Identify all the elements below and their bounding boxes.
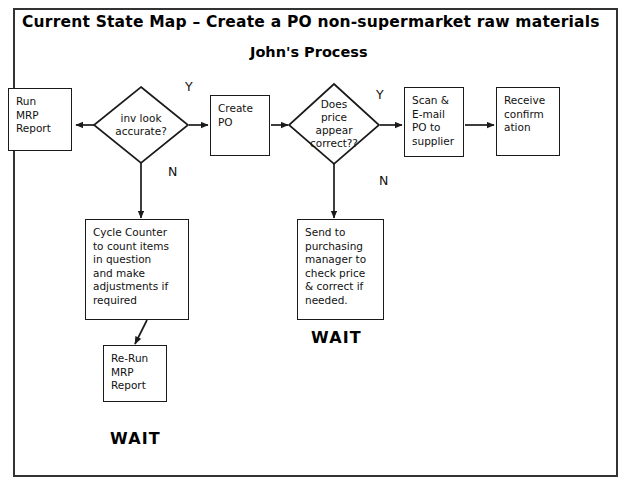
annotation-wait-price: WAIT bbox=[311, 328, 362, 347]
node-run-mrp-report[interactable]: RunMRPReport bbox=[8, 88, 72, 151]
node-does-price-appear-correct[interactable]: Doespriceappearcorrect?? bbox=[287, 82, 381, 166]
node-label: Send topurchasingmanager tocheck price& … bbox=[305, 226, 366, 306]
node-scan-email-po[interactable]: Scan &E-mailPO tosupplier bbox=[404, 87, 464, 157]
node-inv-look-accurate[interactable]: inv lookaccurate? bbox=[92, 85, 190, 165]
page-subtitle: John's Process bbox=[250, 44, 368, 60]
node-label: Scan &E-mailPO tosupplier bbox=[412, 94, 454, 147]
annotation-wait-inventory: WAIT bbox=[110, 429, 161, 448]
node-label: Receiveconfirmation bbox=[504, 94, 545, 133]
node-receive-confirmation[interactable]: Receiveconfirmation bbox=[496, 87, 560, 156]
node-label: CreatePO bbox=[218, 102, 253, 128]
flowchart-canvas: Current State Map – Create a PO non-supe… bbox=[0, 0, 637, 489]
branch-label-inv-yes: Y bbox=[185, 79, 193, 94]
node-cycle-counter[interactable]: Cycle Counterto count itemsin questionan… bbox=[85, 219, 189, 320]
node-label: Cycle Counterto count itemsin questionan… bbox=[93, 226, 169, 306]
node-label: Re-RunMRPReport bbox=[111, 352, 148, 391]
node-label: Doespriceappearcorrect?? bbox=[287, 82, 381, 166]
branch-label-inv-no: N bbox=[168, 164, 177, 179]
node-send-to-purchasing[interactable]: Send topurchasingmanager tocheck price& … bbox=[297, 219, 384, 320]
branch-label-price-yes: Y bbox=[376, 87, 384, 102]
branch-label-price-no: N bbox=[379, 173, 388, 188]
node-label: inv lookaccurate? bbox=[92, 85, 190, 165]
page-title: Current State Map – Create a PO non-supe… bbox=[22, 13, 582, 31]
node-rerun-mrp-report[interactable]: Re-RunMRPReport bbox=[103, 345, 167, 402]
node-label: RunMRPReport bbox=[16, 95, 51, 134]
node-create-po[interactable]: CreatePO bbox=[210, 95, 270, 156]
